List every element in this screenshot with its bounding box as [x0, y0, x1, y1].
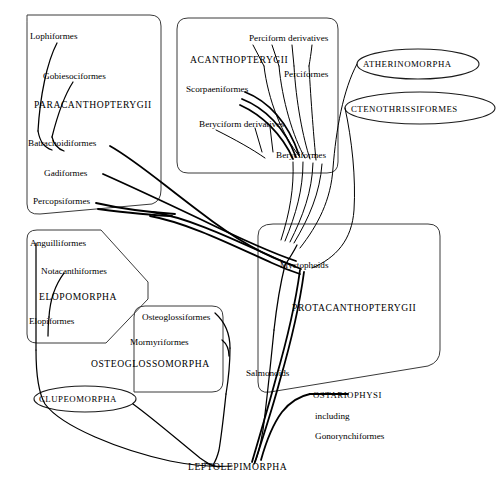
- branch-perciformes-4: [309, 66, 316, 160]
- label-osteoglossiformes: Osteoglossiformes: [142, 312, 211, 322]
- label-ostariophysi-including: including: [315, 411, 350, 421]
- label-ostariophysi-gonorynchiformes: Gonorynchiformes: [315, 431, 385, 441]
- label-osteoglossomorpha: OSTEOGLOSSOMORPHA: [91, 358, 210, 369]
- label-paracanthopterygii: PARACANTHOPTERYGII: [34, 99, 152, 110]
- phylogenetic-diagram: Lophiformes Gobiesociformes PARACANTHOPT…: [0, 0, 499, 486]
- branch-perciform-derivative-3: [292, 45, 294, 66]
- branch-perciformes-3: [294, 66, 310, 159]
- branch-perciformes-2: [279, 66, 305, 158]
- branch-beryciformes-1: [281, 162, 293, 240]
- label-myctophoids: Myctophoids: [280, 260, 329, 270]
- branch-clupeomorpha: [133, 404, 214, 466]
- cladogram-canvas: Lophiformes Gobiesociformes PARACANTHOPT…: [0, 0, 499, 486]
- label-mormyriformes: Mormyriformes: [130, 337, 189, 347]
- label-atherinomorpha: ATHERINOMORPHA: [363, 59, 452, 69]
- branch-beryciformes-2: [285, 162, 303, 241]
- branch-salmonoids: [252, 270, 300, 462]
- label-percopsiformes: Percopsiformes: [33, 196, 91, 206]
- branch-beryciform-derivative-2: [255, 128, 262, 152]
- branch-myctophoids-stem: [274, 265, 285, 330]
- label-gadiformes: Gadiformes: [44, 168, 88, 178]
- label-beryciformes: Beryciformes: [276, 150, 326, 160]
- label-perciform-derivatives: Perciform derivatives: [249, 33, 329, 43]
- branch-beryciform-derivative-3: [270, 127, 273, 152]
- label-protacanthopterygii: PROTACANTHOPTERYGII: [292, 302, 416, 313]
- group-box-paracanthopterygii: [27, 15, 161, 214]
- label-lophiformes: Lophiformes: [30, 31, 78, 41]
- label-elopomorpha: ELOPOMORPHA: [39, 291, 117, 302]
- branch-perciform-derivative-4: [309, 45, 312, 66]
- label-gobiesociformes: Gobiesociformes: [43, 71, 106, 81]
- label-ctenothrissiformes: CTENOTHRISSIFORMES: [351, 104, 458, 114]
- label-leptolepimorpha: LEPTOLEPIMORPHA: [188, 461, 287, 472]
- label-perciformes: Perciformes: [284, 69, 329, 79]
- branch-lophiformes: [38, 43, 57, 131]
- label-batrachoidiformes: Batrachoidiformes: [28, 138, 97, 148]
- branch-osteoglossomorpha-stem: [226, 348, 230, 394]
- label-notacanthiformes: Notacanthiformes: [41, 266, 107, 276]
- label-elopiformes: Elopiformes: [29, 316, 75, 326]
- branch-paracanth-bundle-a: [152, 212, 301, 269]
- label-anguilliformes: Anguilliformes: [30, 238, 87, 248]
- branch-beryciform-derivative-1: [216, 130, 265, 158]
- branch-paracanth-bundle-b: [150, 216, 300, 274]
- label-clupeomorpha: CLUPEOMORPHA: [39, 394, 117, 404]
- label-salmonoids: Salmonoids: [246, 368, 290, 378]
- label-ostariophysi: OSTARIOPHYSI: [313, 390, 382, 400]
- label-scorpaeniformes: Scorpaeniformes: [186, 84, 249, 94]
- branch-gadiformes: [103, 174, 296, 261]
- branch-batrachoidiformes: [110, 146, 295, 266]
- label-acanthopterygii: ACANTHOPTERYGII: [190, 54, 288, 65]
- label-beryciform-derivatives: Beryciform derivatives: [199, 119, 284, 129]
- branch-osteoglosso-descend: [213, 394, 226, 465]
